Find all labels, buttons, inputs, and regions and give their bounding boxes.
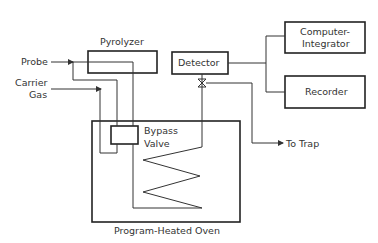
bypass-valve-label-2: Valve	[144, 138, 170, 149]
pyrolyzer-loop-line	[73, 62, 117, 126]
pyrolysis-gc-diagram: Pyrolyzer Detector Computer- Integrator …	[0, 0, 378, 243]
bypass-valve-label-1: Bypass	[144, 125, 178, 136]
bypass-valve-box	[111, 126, 138, 144]
carrier-label-2: Gas	[29, 89, 47, 100]
carrier-label-1: Carrier	[15, 77, 48, 88]
probe-to-valve-line	[71, 62, 133, 126]
pyrolyzer-label: Pyrolyzer	[100, 36, 144, 47]
to-trap-label: To Trap	[285, 138, 319, 149]
oven-box	[92, 121, 240, 222]
detector-label: Detector	[178, 57, 219, 68]
computer-integrator-label-2: Integrator	[302, 38, 350, 49]
recorder-label: Recorder	[305, 86, 348, 97]
oven-label: Program-Heated Oven	[114, 225, 220, 236]
computer-integrator-label-1: Computer-	[300, 26, 350, 37]
probe-label: Probe	[21, 56, 48, 67]
